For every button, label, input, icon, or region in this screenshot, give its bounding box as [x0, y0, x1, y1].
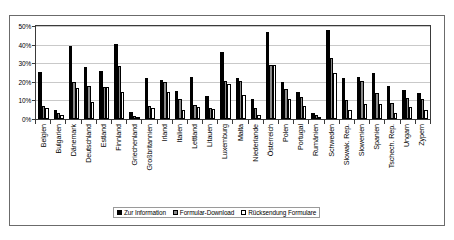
y-axis-tick-label: 40% [19, 41, 31, 48]
bar [151, 108, 154, 119]
bar [197, 107, 200, 119]
x-axis-label-slot: Bulgarien [51, 124, 66, 194]
legend-swatch [173, 210, 178, 215]
bar [182, 110, 185, 119]
bar [303, 106, 306, 119]
bar [45, 108, 48, 119]
bar-group [354, 26, 369, 119]
bar [288, 99, 291, 119]
legend-item: Zur Information [117, 209, 166, 216]
x-axis-tick-label: Spanien [373, 124, 381, 150]
bar [394, 113, 397, 119]
bar-group [188, 26, 203, 119]
x-axis-tick-label: Rumänien [312, 124, 320, 156]
legend-swatch [241, 210, 246, 215]
bar-group [142, 26, 157, 119]
x-axis-tick-label: Polen [282, 124, 290, 142]
bar [76, 88, 79, 119]
bar [409, 107, 412, 119]
x-axis-label-slot: Estland [97, 124, 112, 194]
bar [167, 92, 170, 119]
bar-group [339, 26, 354, 119]
bar [257, 115, 260, 119]
x-axis-label-slot: Niederlande [248, 124, 263, 194]
bar [379, 104, 382, 119]
bar-group [203, 26, 218, 119]
bar-group [97, 26, 112, 119]
y-axis-tick-label: 0% [22, 116, 31, 123]
x-axis-label-slot: Slowak. Rep. [339, 124, 354, 194]
bar-group [36, 26, 51, 119]
x-axis-tick-label: Portugal [297, 124, 305, 150]
x-axis-label-slot: Rumänien [309, 124, 324, 194]
x-axis-tick-label: Irland [161, 124, 169, 141]
x-axis-tick-label: Malta [237, 124, 245, 141]
bar [212, 109, 215, 119]
bar [121, 92, 124, 119]
bar-group [369, 26, 384, 119]
bar-group [112, 26, 127, 119]
x-axis-label-slot: Ungarn [400, 124, 415, 194]
bar-series-container [36, 26, 430, 119]
bar-group [294, 26, 309, 119]
x-axis-label-slot: Portugal [294, 124, 309, 194]
x-axis-label-slot: Lettland [188, 124, 203, 194]
bar-group [51, 26, 66, 119]
bar [318, 117, 321, 119]
y-axis: 0%10%20%30%40%50% [9, 25, 35, 121]
bar-group [81, 26, 96, 119]
bar [60, 115, 63, 119]
x-axis-tick-label: Bulgarien [55, 124, 63, 153]
x-axis-label-slot: Luxemburg [218, 124, 233, 194]
x-axis-tick-label: Finnland [115, 124, 123, 151]
bar [227, 84, 230, 119]
y-axis-tick-mark [32, 100, 35, 101]
bar-group [263, 26, 278, 119]
bar-group [218, 26, 233, 119]
x-axis-tick-label: Slowenien [358, 124, 366, 156]
bar [424, 110, 427, 119]
y-axis-tick-label: 30% [19, 60, 31, 67]
legend-item: Formular-Download [173, 209, 234, 216]
legend-label: Zur Information [124, 209, 166, 216]
y-axis-tick-mark [32, 45, 35, 46]
x-axis-tick-label: Belgien [40, 124, 48, 147]
y-axis-tick-mark [32, 63, 35, 64]
y-axis-tick-label: 10% [19, 97, 31, 104]
x-axis-label-slot: Finnland [112, 124, 127, 194]
bar-group [385, 26, 400, 119]
x-axis-label-slot: Irland [157, 124, 172, 194]
x-axis-tick-label: Großbritannien [146, 124, 154, 171]
bar-group [279, 26, 294, 119]
legend-item: Rücksendung Formulare [241, 209, 316, 216]
x-axis-label-slot: Polen [279, 124, 294, 194]
x-axis-tick-label: Dänemark [70, 124, 78, 156]
x-axis-tick-label: Griechenland [131, 124, 139, 166]
x-axis-tick-label: Schweden [328, 124, 336, 157]
x-axis-label-slot: Belgien [36, 124, 51, 194]
x-axis-tick-label: Italien [176, 124, 184, 142]
legend-label: Rücksendung Formulare [248, 209, 316, 216]
bar [91, 102, 94, 119]
bar-group [66, 26, 81, 119]
x-axis-labels: BelgienBulgarienDänemarkDeutschlandEstla… [36, 124, 430, 194]
x-axis-label-slot: Tschech. Rep. [385, 124, 400, 194]
x-axis-tick-label: Österreich [267, 124, 275, 156]
y-axis-tick-label: 20% [19, 78, 31, 85]
bar-group [400, 26, 415, 119]
bar [333, 73, 336, 119]
x-axis-tick-label: Ungarn [403, 124, 411, 147]
x-axis-label-slot: Zypern [415, 124, 430, 194]
bar [364, 104, 367, 119]
y-axis-tick-label: 50% [19, 23, 31, 30]
bar-group [172, 26, 187, 119]
bar-group [324, 26, 339, 119]
x-axis-label-slot: Italien [172, 124, 187, 194]
x-axis-tick-label: Luxemburg [221, 124, 229, 159]
chart-legend: Zur InformationFormular-DownloadRücksend… [113, 207, 320, 218]
x-axis-tick-label: Tschech. Rep. [388, 124, 396, 168]
bar-group [415, 26, 430, 119]
bar-group [248, 26, 263, 119]
x-axis-label-slot: Griechenland [127, 124, 142, 194]
bar-group [309, 26, 324, 119]
